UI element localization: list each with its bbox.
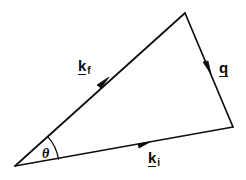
ki-label-subscript: i	[157, 158, 160, 168]
theta-angle-arc	[48, 137, 59, 160]
q-label-base: q	[219, 60, 228, 77]
ki-vector-label: ki	[148, 150, 159, 167]
scattering-triangle-figure: kf q ki θ	[0, 0, 246, 180]
kf-vector-line	[15, 13, 185, 166]
kf-vector-label: kf	[78, 58, 90, 75]
kf-label-base: k	[78, 58, 86, 75]
q-vector-label: q	[219, 60, 228, 77]
scattering-triangle-diagram	[0, 0, 246, 180]
ki-label-base: k	[148, 150, 156, 167]
kf-label-subscript: f	[87, 66, 90, 76]
q-arrowhead-icon	[203, 61, 211, 74]
theta-angle-label: θ	[42, 146, 49, 162]
